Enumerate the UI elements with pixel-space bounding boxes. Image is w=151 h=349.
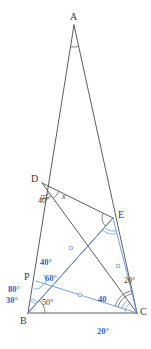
arc-angle-C-20-right [118,294,132,307]
angle-D-x: x [62,193,66,201]
tick-on-EC [116,264,120,268]
angle-D-40: 40° [38,197,49,205]
angle-B-80: 80° [8,285,20,294]
arc-angle-C-20-below [125,303,130,313]
angle-B-50: 50° [42,299,53,307]
angle-C-20-below: 20° [97,327,109,336]
arc-angle-P-60 [34,283,44,289]
point-label-C: C [140,307,147,317]
segment-DE [42,183,113,218]
angle-C-20-right: 20° [124,277,135,285]
angle-B-30: 30° [6,296,18,305]
diagram-canvas: ADEPBC 40°x50°20°40°60°80°30°4020° [0,0,151,349]
geometry-figure [0,0,151,349]
segment-tick-marks-group [69,246,120,297]
angle-C-40: 40 [98,295,107,304]
point-label-E: E [118,210,124,220]
arc-angle-B-30 [30,301,36,304]
angle-P-60: 60° [45,274,57,283]
segment-PC [36,281,137,313]
tick-on-BE [69,246,73,250]
arc-angle-A [71,46,79,47]
arc-angle-E-1 [102,213,106,226]
point-label-A: A [70,12,77,22]
point-label-D: D [31,174,38,184]
black-lines-group [28,25,137,313]
angle-P-40: 40° [40,258,52,267]
arc-angle-E-2 [104,228,116,231]
point-label-P: P [24,272,30,282]
point-label-B: B [20,316,27,326]
tick-on-PC [78,293,82,297]
arc-angle-D-x [53,191,59,198]
